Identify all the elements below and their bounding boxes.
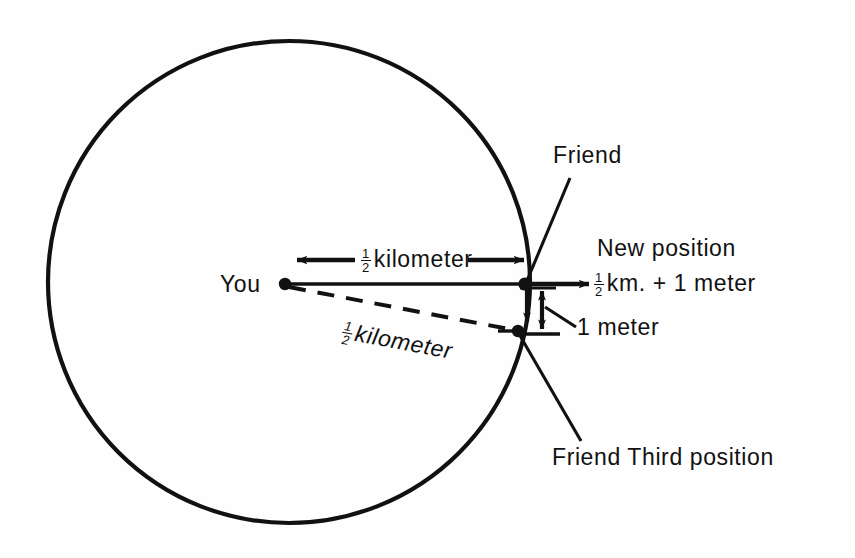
one-meter-label: 1 meter (577, 315, 659, 339)
radius-dashed-line (289, 287, 519, 331)
friend-point-dot (518, 277, 531, 290)
friend-label: Friend (553, 143, 622, 167)
you-label: You (220, 272, 261, 296)
you-point-dot (279, 278, 291, 290)
one-meter-leader-line (545, 307, 576, 327)
friend-leader-line (526, 178, 570, 283)
radius-solid-label: 1 2 kilometer (361, 246, 473, 273)
half-fraction-top: 1 2 (361, 247, 371, 274)
half-fraction-value: 1 2 (594, 271, 604, 298)
third-position-leader-line (519, 334, 581, 441)
radius-solid-unit: kilometer (374, 246, 473, 272)
new-position-value-rest: km. + 1 meter (607, 270, 756, 296)
third-position-label: Friend Third position (552, 445, 774, 469)
new-position-label: New position (597, 236, 736, 260)
diagram-canvas: You 1 2 kilometer 1 2 kilometer Friend N… (0, 0, 855, 558)
new-position-value: 1 2 km. + 1 meter (594, 270, 756, 297)
third-position-point-dot (512, 325, 524, 337)
